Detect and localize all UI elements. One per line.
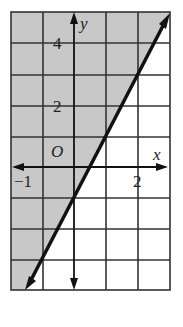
x-axis-label: x [153, 146, 161, 163]
x-axis-arrow-right-icon [156, 163, 168, 171]
y-axis-label: y [80, 15, 88, 32]
y-axis-arrow-down-icon [70, 278, 78, 290]
y-tick-4: 4 [53, 35, 62, 52]
y-tick-2: 2 [53, 98, 62, 115]
shaded-region [11, 12, 170, 290]
origin-label: O [51, 143, 63, 160]
x-tick-minus1: −1 [14, 173, 32, 190]
x-tick-2: 2 [133, 173, 142, 190]
